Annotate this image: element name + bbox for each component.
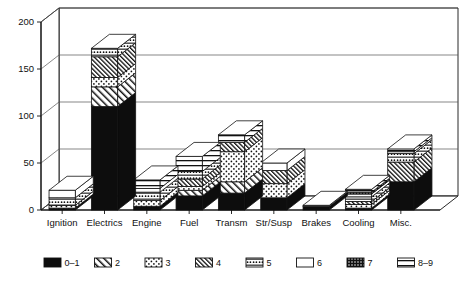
legend-label: 2	[115, 258, 120, 268]
legend-swatch	[95, 258, 112, 267]
x-axis-category-label: Electrics	[87, 217, 123, 228]
chart-legend: 0–12345678–9	[44, 258, 433, 268]
legend-swatch	[297, 258, 314, 267]
legend-item[interactable]: 5	[246, 258, 272, 268]
legend-item[interactable]: 8–9	[398, 258, 434, 268]
legend-swatch	[398, 258, 415, 267]
legend-swatch	[347, 258, 364, 267]
legend-item[interactable]: 7	[347, 258, 373, 268]
x-axis-category-label: Misc.	[390, 217, 412, 228]
legend-label: 5	[267, 258, 272, 268]
x-axis: Misc.CoolingBrakesStr/SuspTransmFuelEngi…	[47, 210, 412, 228]
legend-label: 4	[216, 258, 221, 268]
bar-column	[388, 135, 432, 210]
y-axis-tick-label: 100	[18, 110, 34, 121]
x-axis-category-label: Transm	[216, 217, 248, 228]
legend-item[interactable]: 2	[95, 258, 121, 268]
x-axis-category-label: Cooling	[342, 217, 374, 228]
legend-label: 3	[166, 258, 171, 268]
legend-label: 0–1	[65, 258, 80, 268]
chart-root: 050100150200 Misc.CoolingBrakesStr/SuspT…	[0, 0, 459, 285]
y-axis-tick-label: 50	[23, 157, 34, 168]
x-axis-category-label: Ignition	[47, 217, 78, 228]
x-axis-category-label: Brakes	[301, 217, 331, 228]
bar-column	[261, 149, 305, 210]
stacked-bar-chart: 050100150200 Misc.CoolingBrakesStr/SuspT…	[0, 0, 459, 285]
legend-swatch	[44, 258, 61, 267]
bar-column	[176, 142, 220, 210]
legend-label: 6	[317, 258, 322, 268]
legend-item[interactable]: 3	[145, 258, 171, 268]
x-axis-category-label: Fuel	[180, 217, 198, 228]
legend-swatch	[246, 258, 263, 267]
bar-column	[218, 121, 262, 210]
x-axis-category-label: Str/Susp	[256, 217, 292, 228]
y-axis-tick-label: 200	[18, 16, 34, 27]
legend-item[interactable]: 4	[196, 258, 222, 268]
y-axis-tick-label: 0	[29, 204, 34, 215]
legend-item[interactable]: 0–1	[44, 258, 80, 268]
legend-label: 7	[368, 258, 373, 268]
legend-label: 8–9	[418, 258, 433, 268]
legend-swatch	[196, 258, 213, 267]
bar-column	[91, 34, 135, 210]
legend-swatch	[145, 258, 162, 267]
y-axis-tick-label: 150	[18, 63, 34, 74]
legend-item[interactable]: 6	[297, 258, 323, 268]
x-axis-category-label: Engine	[132, 217, 162, 228]
